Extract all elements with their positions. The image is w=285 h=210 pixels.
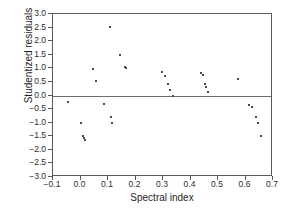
data-point [207, 91, 209, 93]
y-axis-tick-label: 0.0 [34, 90, 46, 99]
data-point [84, 139, 86, 141]
data-point [92, 68, 94, 70]
plot-area [52, 13, 272, 176]
x-axis-tick-label: −0.1 [44, 180, 61, 189]
y-axis-tick-mark [48, 40, 52, 41]
y-axis-tick-mark [48, 149, 52, 150]
x-axis-tick-label: 0.0 [74, 180, 86, 189]
y-axis-title: Studentized residuals [23, 0, 34, 136]
x-axis-tick-label: 0.5 [211, 180, 223, 189]
y-axis-tick-label: 1.5 [34, 50, 46, 59]
data-point [161, 71, 163, 73]
y-axis-tick-mark [48, 13, 52, 14]
x-axis-tick-label: 0.4 [184, 180, 196, 189]
data-point [172, 95, 174, 97]
y-axis-tick-mark [48, 135, 52, 136]
y-axis-tick-mark [48, 95, 52, 96]
data-point [109, 26, 111, 28]
y-axis-tick-label: −2.5 [29, 158, 46, 167]
scatter-plot-figure: 3.02.52.01.51.00.50.0−0.5−1.0−1.5−2.0−2.… [0, 0, 285, 210]
data-point [95, 80, 97, 82]
y-axis-tick-label: 1.0 [34, 63, 46, 72]
y-axis-tick-label: 2.5 [34, 22, 46, 31]
y-axis-tick-mark [48, 67, 52, 68]
data-point [205, 86, 207, 88]
data-point [248, 104, 250, 106]
data-point [202, 74, 204, 76]
data-point [169, 89, 171, 91]
data-point [125, 67, 127, 69]
data-point [119, 54, 121, 56]
y-axis-tick-mark [48, 122, 52, 123]
x-axis-tick-mark [107, 176, 108, 180]
data-point [111, 122, 113, 124]
x-axis-tick-label: 0.7 [266, 180, 278, 189]
y-axis-tick-mark [48, 54, 52, 55]
x-axis-tick-label: 0.2 [129, 180, 141, 189]
x-axis-tick-label: 0.1 [101, 180, 113, 189]
data-point [255, 116, 257, 118]
y-axis-tick-mark [48, 81, 52, 82]
data-point [167, 83, 169, 85]
x-axis-title: Spectral index [52, 192, 272, 203]
data-point [237, 78, 239, 80]
y-axis-tick-mark [48, 108, 52, 109]
y-axis-tick-label: 0.5 [34, 77, 46, 86]
x-axis-tick-mark [272, 176, 273, 180]
y-axis-tick-mark [48, 27, 52, 28]
x-axis-tick-mark [80, 176, 81, 180]
y-axis-tick-label: 3.0 [34, 9, 46, 18]
data-point [204, 83, 206, 85]
x-axis-tick-mark [135, 176, 136, 180]
data-point [164, 75, 166, 77]
data-point [80, 122, 82, 124]
x-axis-tick-label: 0.3 [156, 180, 168, 189]
x-axis-tick-mark [217, 176, 218, 180]
y-axis-tick-label: 2.0 [34, 36, 46, 45]
data-point [110, 116, 112, 118]
x-axis-tick-mark [162, 176, 163, 180]
data-point [103, 103, 105, 105]
x-axis-tick-mark [245, 176, 246, 180]
zero-reference-line [53, 96, 271, 97]
data-point [257, 122, 259, 124]
data-point [67, 101, 69, 103]
x-axis-tick-mark [52, 176, 53, 180]
y-axis-tick-mark [48, 162, 52, 163]
data-point [251, 106, 253, 108]
y-axis-tick-label: −2.0 [29, 145, 46, 154]
x-axis-tick-label: 0.6 [239, 180, 251, 189]
x-axis-tick-mark [190, 176, 191, 180]
data-point [260, 135, 262, 137]
